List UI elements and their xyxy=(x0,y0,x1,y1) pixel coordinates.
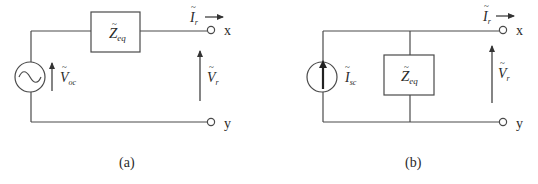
output-current-label: Ir xyxy=(189,10,199,27)
svg-text:~: ~ xyxy=(484,1,489,11)
caption-b: (b) xyxy=(405,155,422,171)
terminal-x-label: x xyxy=(224,23,231,38)
circuit-a xyxy=(15,12,223,126)
source-voltage-label: Voc xyxy=(60,70,77,87)
terminal-x-label: x xyxy=(516,23,523,38)
terminal-y xyxy=(207,118,214,125)
svg-text:~: ~ xyxy=(404,62,409,72)
caption-a: (a) xyxy=(119,155,135,171)
output-voltage-label: Vr xyxy=(498,66,511,83)
svg-text:~: ~ xyxy=(345,62,350,72)
svg-text:~: ~ xyxy=(209,62,214,72)
output-current-label: Ir xyxy=(482,9,492,26)
terminal-y-label: y xyxy=(224,116,231,131)
terminal-x xyxy=(207,26,214,33)
sine-wave-icon xyxy=(19,72,41,83)
terminal-x xyxy=(499,26,506,33)
terminal-y xyxy=(499,118,506,125)
source-current-label: Isc xyxy=(344,70,357,87)
svg-text:~: ~ xyxy=(500,58,505,68)
circuit-a-labels: Zeq ~ Voc ~ Vr ~ Ir ~ x y (a) xyxy=(60,2,231,171)
svg-text:~: ~ xyxy=(112,19,117,29)
circuit-figure: Zeq ~ Voc ~ Vr ~ Ir ~ x y (a) xyxy=(0,0,538,184)
svg-text:~: ~ xyxy=(191,2,196,12)
circuit-b xyxy=(307,16,514,126)
svg-text:~: ~ xyxy=(62,62,67,72)
terminal-y-label: y xyxy=(516,116,523,131)
output-voltage-label: Vr xyxy=(207,70,220,87)
